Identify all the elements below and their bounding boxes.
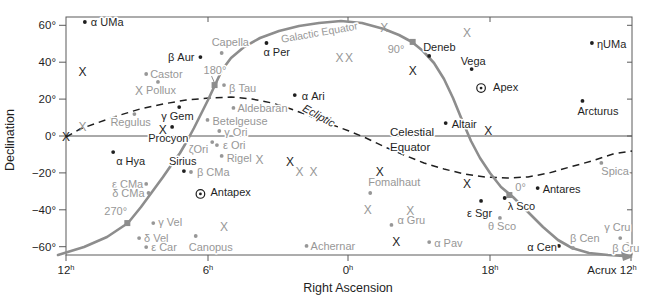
x-source-marker: X bbox=[79, 65, 87, 79]
star-dot bbox=[111, 150, 115, 154]
star-dot bbox=[293, 93, 297, 97]
star-dot bbox=[590, 41, 594, 45]
star-chart: 60°40°20°0°−20°−40°−60°12h6h0h18hAcrux 1… bbox=[0, 0, 654, 304]
x-source-marker: X bbox=[62, 130, 70, 144]
star-label: λ Sco bbox=[508, 200, 536, 212]
star-label: Apex bbox=[493, 81, 519, 93]
x-source-marker: X bbox=[79, 120, 87, 134]
y-tick-label: 20° bbox=[39, 93, 56, 105]
star-dot bbox=[479, 199, 483, 203]
star-label: α UMa bbox=[91, 16, 125, 28]
star-dot bbox=[170, 125, 174, 129]
star-label: Regulus bbox=[110, 116, 151, 128]
star-dot bbox=[571, 246, 575, 250]
x-source-marker: X bbox=[463, 177, 471, 191]
star-dot bbox=[215, 143, 219, 147]
x-source-marker: X bbox=[463, 26, 471, 40]
star-dot bbox=[206, 118, 210, 122]
celestial-equator-label: Celestial bbox=[390, 126, 434, 138]
galactic-longitude-marker bbox=[212, 82, 218, 88]
x-source-marker: X bbox=[220, 220, 228, 234]
x-source-marker: X bbox=[286, 155, 294, 169]
apex-target-center bbox=[199, 193, 202, 196]
star-label: Aldebaran bbox=[237, 102, 287, 114]
star-dot bbox=[305, 244, 309, 248]
x-tick-label: 18h bbox=[482, 263, 499, 276]
star-label: Antares bbox=[543, 183, 581, 195]
star-dot bbox=[536, 186, 540, 190]
star-label: γ Gem bbox=[161, 110, 193, 122]
star-dot bbox=[444, 121, 448, 125]
ecliptic-label: Ecliptic bbox=[301, 102, 338, 130]
star-dot bbox=[503, 196, 507, 200]
x-source-marker: X bbox=[484, 124, 492, 138]
celestial-equator-label: Equator bbox=[390, 141, 430, 153]
star-dot bbox=[368, 191, 372, 195]
star-label: β Cru bbox=[612, 242, 639, 254]
y-axis-title: Declination bbox=[3, 109, 17, 171]
longitude-leader-line bbox=[212, 76, 215, 83]
star-label: Achernar bbox=[311, 240, 356, 252]
star-dot bbox=[581, 99, 585, 103]
star-label: γ Cru bbox=[604, 221, 630, 233]
x-source-marker: X bbox=[310, 165, 318, 179]
star-dot bbox=[144, 245, 148, 249]
x-source-marker: X bbox=[135, 84, 143, 98]
galactic-longitude-marker bbox=[506, 192, 512, 198]
star-dot bbox=[144, 72, 148, 76]
star-dot bbox=[144, 182, 148, 186]
star-label: Sirius bbox=[169, 155, 197, 167]
apex-target-center bbox=[480, 87, 483, 90]
star-dot bbox=[427, 54, 431, 58]
star-label: Deneb bbox=[423, 41, 455, 53]
star-label: θ Sco bbox=[488, 220, 516, 232]
x-source-marker: X bbox=[392, 235, 400, 249]
x-source-marker: X bbox=[364, 203, 372, 217]
star-label: α Cen bbox=[527, 241, 557, 253]
star-dot bbox=[390, 223, 394, 227]
star-label: Canopus bbox=[189, 241, 234, 253]
star-dot bbox=[137, 236, 141, 240]
y-tick-label: 40° bbox=[39, 56, 56, 68]
star-label: α Hya bbox=[116, 155, 146, 167]
star-label: Pollux bbox=[146, 84, 176, 96]
x-tick-label: Acrux 12h bbox=[587, 263, 637, 276]
star-dot bbox=[470, 67, 474, 71]
galactic-longitude-label: 0° bbox=[515, 181, 526, 193]
star-label: Procyon bbox=[148, 132, 188, 144]
star-label: β Aur bbox=[168, 51, 195, 63]
star-dot bbox=[182, 169, 186, 173]
x-source-marker: X bbox=[409, 64, 417, 78]
star-label: Altair bbox=[452, 118, 477, 130]
star-label: α Per bbox=[263, 46, 290, 58]
star-label: ε Ori bbox=[223, 139, 246, 151]
star-dot bbox=[210, 140, 214, 144]
y-tick-label: 0° bbox=[45, 130, 56, 142]
x-source-marker: X bbox=[345, 51, 353, 65]
x-source-marker: X bbox=[336, 51, 344, 65]
star-label: ηUMa bbox=[597, 38, 627, 50]
star-dot bbox=[232, 106, 236, 110]
star-label: ε Sgr bbox=[467, 207, 492, 219]
star-label: Rigel bbox=[227, 152, 252, 164]
y-tick-label: 60° bbox=[39, 19, 56, 31]
star-label: Spica bbox=[601, 165, 629, 177]
star-label: δ CMa bbox=[112, 187, 145, 199]
star-dot bbox=[199, 55, 203, 59]
galactic-longitude-marker bbox=[410, 39, 416, 45]
star-dot bbox=[151, 221, 155, 225]
star-dot bbox=[147, 191, 151, 195]
star-dot bbox=[427, 240, 431, 244]
x-tick-label: 0h bbox=[343, 263, 354, 276]
star-label: Betelgeuse bbox=[213, 115, 268, 127]
y-tick-label: −20° bbox=[32, 167, 56, 179]
star-chart-figure: 60°40°20°0°−20°−40°−60°12h6h0h18hAcrux 1… bbox=[0, 0, 654, 304]
galactic-longitude-label: 270° bbox=[104, 205, 127, 217]
star-dot bbox=[220, 51, 224, 55]
star-dot bbox=[189, 170, 193, 174]
star-label: Capella bbox=[212, 36, 250, 48]
y-tick-label: −40° bbox=[32, 204, 56, 216]
star-dot bbox=[557, 244, 561, 248]
galactic-longitude-label: 90° bbox=[388, 43, 405, 55]
star-label: Arcturus bbox=[577, 105, 618, 117]
